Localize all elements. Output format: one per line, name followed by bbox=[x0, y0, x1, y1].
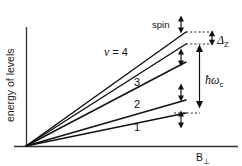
level-label-nu4: ν= 4 bbox=[104, 45, 128, 59]
level-label-1: 1 bbox=[134, 121, 140, 133]
level-label-3: 3 bbox=[134, 76, 140, 88]
figure-canvas: energy of levels B⊥ ν= 4 3 2 1 spin ΔZ ħ… bbox=[0, 0, 242, 166]
delta-symbol: Δ bbox=[216, 33, 224, 47]
nu-symbol: ν bbox=[104, 45, 110, 59]
spin-annotation-label: spin bbox=[152, 19, 169, 30]
x-axis-label-sub: ⊥ bbox=[203, 157, 210, 166]
delta-subscript: Z bbox=[224, 40, 229, 49]
cyclotron-subscript: c bbox=[219, 80, 223, 89]
hbar-omega-symbol: ħω bbox=[205, 73, 219, 87]
y-axis-label: energy of levels bbox=[4, 48, 16, 122]
level-label-2: 2 bbox=[134, 98, 140, 110]
nu-equals-4: = 4 bbox=[112, 46, 128, 58]
x-axis-label-main: B bbox=[196, 151, 203, 163]
landau-level-figure: energy of levels B⊥ ν= 4 3 2 1 spin ΔZ ħ… bbox=[0, 0, 242, 166]
